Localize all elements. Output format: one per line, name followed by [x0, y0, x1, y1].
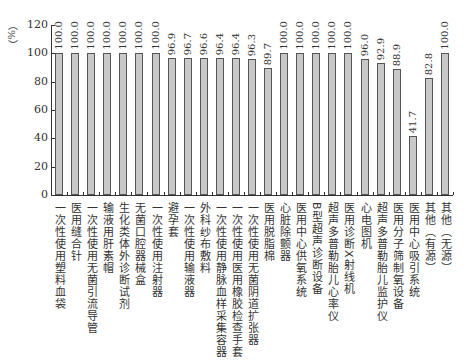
x-tick: [196, 192, 197, 195]
bar: [71, 53, 79, 195]
bar-value-label: 100.0: [118, 21, 128, 50]
x-category-label: 生化类体外诊断试剂: [117, 202, 129, 310]
x-tick: [244, 192, 245, 195]
x-category-label: 其他（无源）: [439, 202, 451, 274]
x-tick: [437, 192, 438, 195]
bar-value-label: 100.0: [343, 21, 353, 50]
x-tick: [324, 192, 325, 195]
bar: [200, 58, 208, 195]
bar: [441, 53, 449, 195]
x-category-label: 其他（有源）: [423, 202, 435, 274]
x-tick: [67, 192, 68, 195]
x-tick: [292, 192, 293, 195]
x-tick: [453, 192, 454, 195]
x-tick: [164, 192, 165, 195]
bar: [248, 59, 256, 195]
y-axis-unit: （%）: [6, 20, 16, 50]
x-category-label: 医用脱脂棉: [262, 202, 274, 262]
bar-value-label: 100.0: [440, 21, 450, 50]
x-tick: [131, 192, 132, 195]
bar: [87, 53, 95, 195]
bar: [393, 69, 401, 195]
x-category-label: 医用分子筛制氧设备: [391, 202, 403, 310]
x-category-label: 医用缝合针: [69, 202, 81, 262]
x-category-label: 外科纱布敷料: [198, 202, 210, 274]
bar-value-label: 100.0: [134, 21, 144, 50]
x-tick: [180, 192, 181, 195]
x-category-label: 一次性使用输液器: [182, 202, 194, 298]
x-tick: [308, 192, 309, 195]
x-category-label: 避孕套: [166, 202, 178, 238]
bar: [135, 53, 143, 195]
bar-value-label: 100.0: [102, 21, 112, 50]
x-category-label: 一次性使用无菌引流导管: [85, 202, 97, 334]
bar: [425, 78, 433, 195]
bar-value-label: 41.7: [408, 111, 418, 133]
bar: [168, 58, 176, 195]
x-tick: [340, 192, 341, 195]
x-category-label: 超声多普勒胎儿监护仪: [375, 202, 387, 322]
bar-value-label: 96.4: [215, 33, 225, 55]
bar: [328, 53, 336, 195]
y-tick-label: 0: [20, 189, 48, 200]
bar: [409, 136, 417, 195]
x-category-label: 一次性使用静脉血样采集容器: [214, 202, 226, 358]
x-category-label: 无菌口腔器械盒: [133, 202, 145, 286]
bar-value-label: 100.0: [327, 21, 337, 50]
bar: [312, 53, 320, 195]
x-category-label: 医用诊断X射线机: [342, 202, 354, 295]
bar: [184, 58, 192, 195]
bar: [280, 53, 288, 195]
x-category-label: B型超声诊断设备: [310, 202, 322, 295]
x-tick: [421, 192, 422, 195]
bar-value-label: 100.0: [151, 21, 161, 50]
x-category-label: 一次性使用塑料血袋: [53, 202, 65, 310]
x-axis-line: [51, 195, 453, 196]
bar-value-label: 100.0: [279, 21, 289, 50]
y-tick-label: 100: [20, 47, 48, 58]
x-category-label: 医用中心供氧系统: [294, 202, 306, 298]
x-tick: [357, 192, 358, 195]
y-tick-label: 120: [20, 19, 48, 30]
x-tick: [260, 192, 261, 195]
bar: [152, 53, 160, 195]
bar-chart: （%） 020406080100120 100.0100.0100.0100.0…: [0, 0, 474, 360]
bar-value-label: 100.0: [295, 21, 305, 50]
bar-value-label: 96.7: [183, 33, 193, 55]
bar: [361, 59, 369, 195]
bar-value-label: 92.9: [376, 38, 386, 60]
bar: [296, 53, 304, 195]
x-category-label: 超声多普勒胎儿心率仪: [326, 202, 338, 322]
x-tick: [276, 192, 277, 195]
bar-value-label: 100.0: [54, 21, 64, 50]
x-tick: [83, 192, 84, 195]
bar: [55, 53, 63, 195]
bar-value-label: 96.3: [247, 34, 257, 56]
x-category-label: 一次性使用注射器: [150, 202, 162, 298]
bar-value-label: 100.0: [311, 21, 321, 50]
x-category-label: 心电图机: [359, 202, 371, 250]
x-category-label: 输液用肝素帽: [101, 202, 113, 274]
bar-value-label: 89.7: [263, 43, 273, 65]
y-tick-label: 80: [20, 76, 48, 87]
bar-value-label: 100.0: [70, 21, 80, 50]
bar: [232, 58, 240, 195]
x-tick: [115, 192, 116, 195]
x-tick: [99, 192, 100, 195]
x-tick: [389, 192, 390, 195]
y-tick-label: 60: [20, 104, 48, 115]
bar: [216, 58, 224, 195]
bar-value-label: 96.6: [199, 33, 209, 55]
bar-value-label: 96.4: [231, 33, 241, 55]
bar-value-label: 88.9: [392, 44, 402, 66]
x-tick: [212, 192, 213, 195]
x-category-label: 一次性使用无菌阴道扩张器: [246, 202, 258, 346]
bar: [103, 53, 111, 195]
bar: [344, 53, 352, 195]
x-tick: [373, 192, 374, 195]
bar-value-label: 82.8: [424, 53, 434, 75]
y-tick-label: 40: [20, 132, 48, 143]
bar: [264, 68, 272, 195]
bar-value-label: 100.0: [86, 21, 96, 50]
bar: [377, 63, 385, 195]
